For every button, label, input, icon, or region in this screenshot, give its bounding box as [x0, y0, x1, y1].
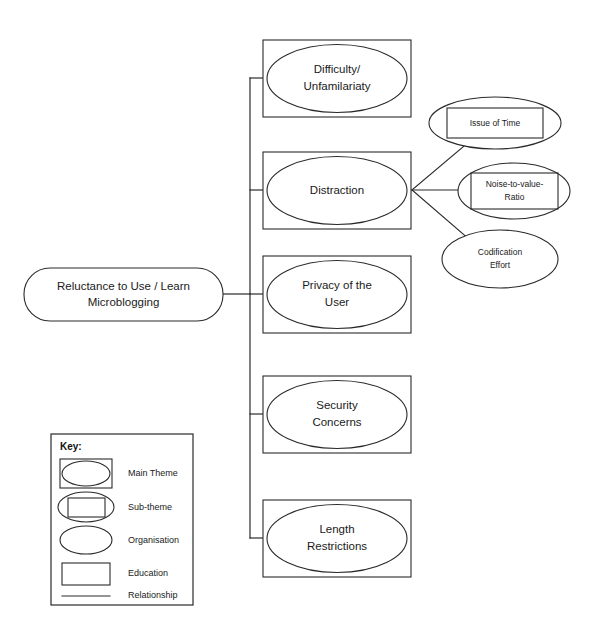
key-main-theme-rectangle — [60, 459, 112, 488]
diagram-canvas: Reluctance to Use / Learn Microblogging … — [0, 0, 594, 639]
key-label-organisation: Organisation — [128, 535, 179, 545]
node-privacy-of-the-user[interactable]: Privacy of the User — [263, 256, 411, 333]
node-issue-of-time[interactable]: Issue of Time — [429, 97, 561, 149]
root-label-line1: Reluctance to Use / Learn — [57, 280, 190, 292]
key-title: Key: — [60, 441, 82, 452]
key-label-main-theme: Main Theme — [128, 468, 178, 478]
node-difficulty-unfamilariaty[interactable]: Difficulty/ Unfamilariaty — [263, 40, 411, 117]
key-label-relationship: Relationship — [128, 590, 178, 600]
key-education-rectangle — [62, 563, 110, 585]
key-label-sub-theme: Sub-theme — [128, 502, 172, 512]
length-label-line2: Restrictions — [307, 540, 367, 552]
node-length-restrictions[interactable]: Length Restrictions — [263, 500, 411, 577]
security-label-line2: Concerns — [312, 416, 361, 428]
difficulty-rectangle — [263, 40, 411, 117]
difficulty-label-line1: Difficulty/ — [314, 63, 361, 75]
node-security-concerns[interactable]: Security Concerns — [263, 376, 411, 453]
length-label-line1: Length — [319, 523, 354, 535]
noise-to-value-ratio-label-line2: Ratio — [505, 192, 525, 202]
noise-to-value-ratio-label-line1: Noise-to-value- — [486, 179, 544, 189]
codification-effort-label-line2: Effort — [490, 260, 511, 270]
node-noise-to-value-ratio[interactable]: Noise-to-value- Ratio — [458, 163, 570, 219]
node-distraction[interactable]: Distraction — [263, 152, 411, 229]
root-label-line2: Microblogging — [88, 296, 160, 308]
distraction-label-line1: Distraction — [310, 184, 364, 196]
issue-of-time-label-line1: Issue of Time — [470, 118, 521, 128]
privacy-label-line1: Privacy of the — [302, 279, 372, 291]
key-legend: Key: Main Theme Sub-theme Organisation — [51, 434, 193, 605]
security-rectangle — [263, 376, 411, 453]
codification-effort-ellipse — [442, 230, 558, 288]
privacy-label-line2: User — [325, 296, 349, 308]
difficulty-label-line2: Unfamilariaty — [303, 80, 370, 92]
privacy-rectangle — [263, 256, 411, 333]
node-codification-effort[interactable]: Codification Effort — [442, 230, 558, 288]
node-root[interactable]: Reluctance to Use / Learn Microblogging — [24, 268, 223, 321]
key-label-education: Education — [128, 568, 168, 578]
codification-effort-label-line1: Codification — [478, 247, 523, 257]
length-rectangle — [263, 500, 411, 577]
connector-group-root-to-themes — [223, 78, 263, 538]
root-rounded-rectangle — [24, 268, 223, 321]
key-organisation-ellipse — [60, 526, 112, 554]
security-label-line1: Security — [316, 399, 358, 411]
noise-to-value-ratio-ellipse — [458, 163, 570, 219]
thematic-map-diagram: Reluctance to Use / Learn Microblogging … — [0, 0, 594, 639]
